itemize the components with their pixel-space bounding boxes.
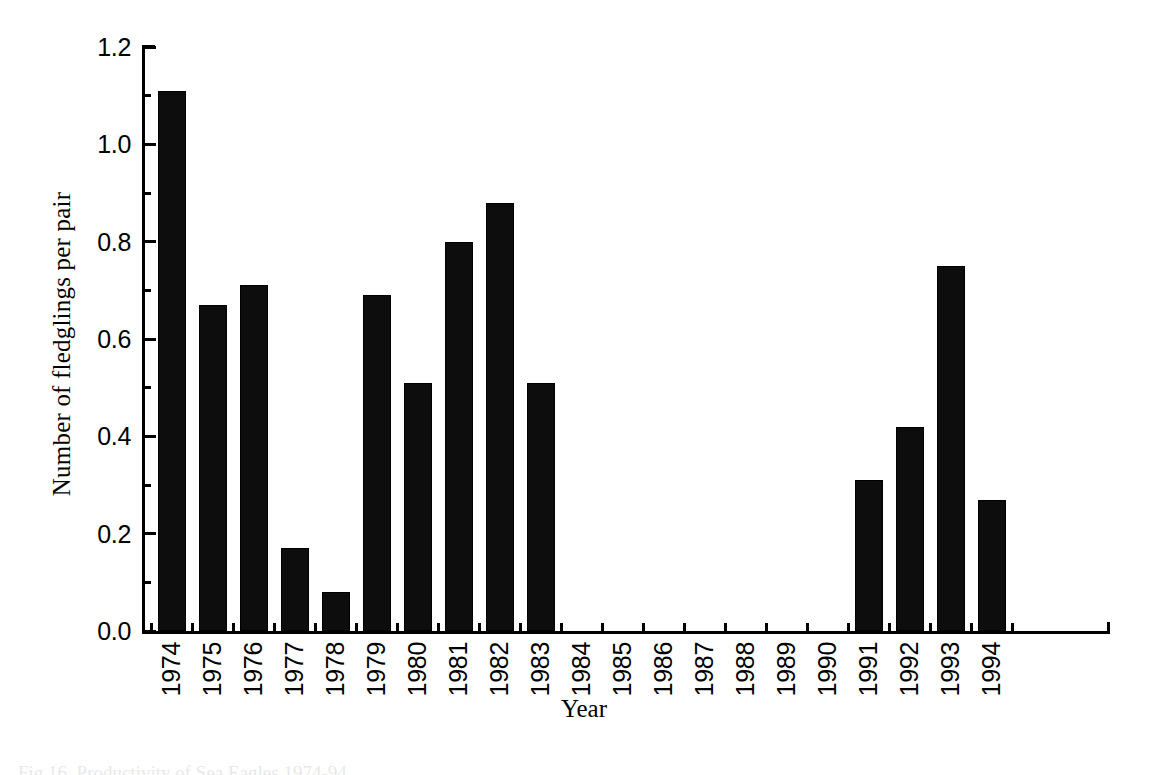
x-tick-label: 1978 [323,642,348,696]
x-tick-label: 1986 [651,642,676,696]
x-tick-label: 1982 [487,642,512,696]
x-tick-label: 1984 [569,642,594,696]
y-tick-label: 0.6 [97,325,131,354]
y-tick-minor [142,192,151,195]
chart-figure: Number of fledglings per pair 0.00.20.40… [0,0,1168,775]
x-tick-label: 1993 [938,642,963,696]
x-tick-label: 1979 [364,642,389,696]
x-tick [847,623,850,634]
x-tick [806,623,809,634]
bar [486,203,514,631]
y-tick-major: 0.6 [142,338,156,341]
x-tick [642,623,645,634]
x-tick-label: 1991 [856,642,881,696]
x-tick-label: 1994 [979,642,1004,696]
x-tick [970,623,973,634]
x-tick [314,623,317,634]
bar [240,285,268,631]
x-tick-label: 1975 [200,642,225,696]
y-tick-major: 1.2 [142,46,156,49]
bar [158,91,186,631]
x-tick [929,623,932,634]
x-tick [765,623,768,634]
bar [855,480,883,631]
y-tick-label: 1.0 [97,130,131,159]
x-tick [232,623,235,634]
bar [896,427,924,631]
bar [281,548,309,631]
x-axis-spine [142,631,1109,634]
bar [937,266,965,631]
y-tick-label: 1.2 [97,33,131,62]
x-tick-label: 1990 [815,642,840,696]
y-tick-label: 0.0 [97,617,131,646]
bar [199,305,227,631]
x-tick-label: 1985 [610,642,635,696]
x-tick [601,623,604,634]
y-axis-title: Number of fledglings per pair [48,104,76,584]
x-tick [478,623,481,634]
y-tick-major: 0.2 [142,532,156,535]
x-tick [396,623,399,634]
x-tick-label: 1989 [774,642,799,696]
x-tick [519,623,522,634]
y-tick-major: 0.4 [142,435,156,438]
y-tick-minor [142,289,151,292]
y-tick-minor [142,581,151,584]
x-tick [888,623,891,634]
y-tick-label: 0.2 [97,519,131,548]
x-tick-label: 1974 [159,642,184,696]
bar [527,383,555,631]
y-tick-minor [142,94,151,97]
y-tick-major: 1.0 [142,143,156,146]
figure-caption: Fig 16. Productivity of Sea Eagles 1974-… [18,762,347,775]
x-tick [683,623,686,634]
x-tick [273,623,276,634]
x-axis-right-cap [1107,622,1110,634]
x-tick-label: 1980 [405,642,430,696]
x-tick [437,623,440,634]
x-tick-label: 1992 [897,642,922,696]
x-tick [1011,623,1014,634]
y-tick-minor [142,386,151,389]
bar [404,383,432,631]
bar [445,242,473,631]
y-tick-major: 0.8 [142,240,156,243]
bar [363,295,391,631]
x-tick [560,623,563,634]
bar [978,500,1006,631]
x-tick-label: 1981 [446,642,471,696]
y-tick-label: 0.8 [97,227,131,256]
y-tick-minor [142,484,151,487]
x-axis-title: Year [0,695,1168,723]
y-tick-label: 0.4 [97,422,131,451]
x-tick [191,623,194,634]
y-tick-major: 0.0 [142,630,156,633]
x-tick-label: 1988 [733,642,758,696]
x-tick-label: 1977 [282,642,307,696]
bar [322,592,350,631]
x-tick [150,623,153,634]
x-tick [724,623,727,634]
x-tick-label: 1976 [241,642,266,696]
x-tick [355,623,358,634]
plot-area: 0.00.20.40.60.81.01.2 [144,47,1108,631]
x-tick-label: 1987 [692,642,717,696]
x-tick-label: 1983 [528,642,553,696]
